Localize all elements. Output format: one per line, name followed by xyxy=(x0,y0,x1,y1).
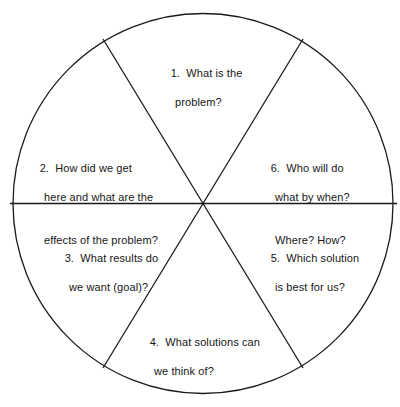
sector-5-line-2: is best for us? xyxy=(258,280,359,295)
sector-4-number: 4. xyxy=(150,336,159,348)
sector-6-line-2: what by when? xyxy=(258,190,350,205)
sector-2-number: 2. xyxy=(40,162,49,174)
sector-1-number: 1. xyxy=(171,67,180,79)
sector-label-6: 6. Who will do what by when? Where? How? xyxy=(258,146,350,277)
sector-6-number: 6. xyxy=(271,162,280,174)
sector-2-line-2: here and what are the xyxy=(27,190,158,205)
problem-solving-wheel-diagram: 1. What is the problem? 2. How did we ge… xyxy=(0,0,400,407)
sector-label-4: 4. What solutions can we think of? xyxy=(137,320,260,407)
sector-1-line-1: What is the xyxy=(186,67,242,79)
sector-1-line-2: problem? xyxy=(158,95,242,110)
sector-label-1: 1. What is the problem? xyxy=(158,51,242,138)
sector-6-line-3: Where? How? xyxy=(258,233,350,248)
sector-2-line-1: How did we get xyxy=(55,162,132,174)
sector-3-number: 3. xyxy=(65,252,74,264)
sector-3-line-1: What results do xyxy=(80,252,158,264)
sector-6-line-1: Who will do xyxy=(286,162,343,174)
sector-label-3: 3. What results do we want (goal)? xyxy=(52,236,158,323)
sector-3-line-2: we want (goal)? xyxy=(52,280,158,295)
sector-4-line-1: What solutions can xyxy=(165,336,260,348)
sector-4-line-2: we think of? xyxy=(137,364,260,379)
